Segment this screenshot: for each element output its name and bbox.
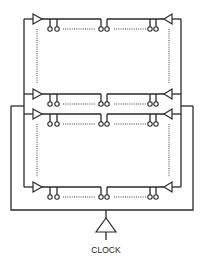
clock-pin-icon xyxy=(154,122,158,126)
clock-pin-icon xyxy=(55,122,59,126)
clock-pin-icon xyxy=(148,195,152,199)
clock-buffer-icon xyxy=(96,218,116,232)
clock-label: CLOCK xyxy=(91,245,121,255)
left-buffer-icon xyxy=(33,89,42,99)
clock-pin-icon xyxy=(99,122,103,126)
right-buffer-icon xyxy=(164,89,172,99)
clock-pin-icon xyxy=(105,27,109,31)
clock-pin-icon xyxy=(55,27,59,31)
right-buffer-icon xyxy=(164,109,172,119)
clock-pin-icon xyxy=(55,195,59,199)
clock-row xyxy=(24,182,181,199)
clock-pin-icon xyxy=(48,102,52,106)
left-buffer-icon xyxy=(33,109,42,119)
rows xyxy=(24,14,181,199)
clock-pin-icon xyxy=(99,195,103,199)
right-buffer-icon xyxy=(164,14,172,24)
clock-pin-icon xyxy=(48,122,52,126)
clock-row xyxy=(24,14,181,31)
clock-row xyxy=(24,109,181,126)
clock-pin-icon xyxy=(48,27,52,31)
clock-pin-icon xyxy=(55,102,59,106)
clock-pin-icon xyxy=(154,102,158,106)
clock-row xyxy=(24,89,181,106)
clock-pin-icon xyxy=(48,195,52,199)
clock-pin-icon xyxy=(154,195,158,199)
clock-pin-icon xyxy=(154,27,158,31)
right-buffer-icon xyxy=(164,182,172,192)
clock-pin-icon xyxy=(148,102,152,106)
left-buffer-icon xyxy=(33,14,42,24)
clock-pin-icon xyxy=(105,122,109,126)
clock-pin-icon xyxy=(148,27,152,31)
clock-pin-icon xyxy=(105,195,109,199)
clock-tree-diagram: CLOCK xyxy=(0,0,203,264)
left-buffer-icon xyxy=(33,182,42,192)
clock-pin-icon xyxy=(99,27,103,31)
clock-pin-icon xyxy=(148,122,152,126)
clock-driver: CLOCK xyxy=(91,210,121,255)
clock-pin-icon xyxy=(105,102,109,106)
clock-pin-icon xyxy=(99,102,103,106)
